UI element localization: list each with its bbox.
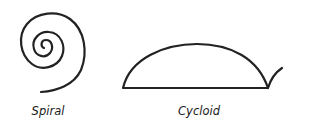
spiral-label: Spiral <box>32 104 65 118</box>
cycloid-label: Cycloid <box>178 104 220 118</box>
spiral-figure <box>21 13 85 92</box>
cycloid-tail <box>268 68 282 88</box>
spiral-curve <box>21 13 85 92</box>
cycloid-arch <box>123 44 268 88</box>
cycloid-figure <box>123 44 282 88</box>
